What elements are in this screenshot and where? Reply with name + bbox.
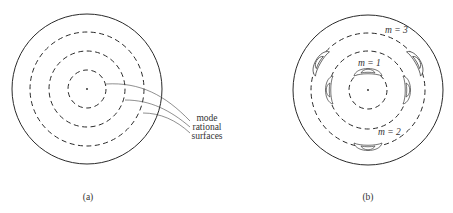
panel-b: m = 1 m = 2 m = 3 (b) [293,15,443,203]
magnetic-axis-dot [86,88,88,90]
label-m3: m = 3 [385,25,408,35]
label-m1: m = 1 [358,58,381,68]
caption-a: (a) [83,192,94,203]
caption-b: (b) [362,192,373,203]
island-m2-left [326,76,334,104]
island-m3-upper-right [407,48,427,76]
label-surfaces: surfaces [191,131,222,141]
panel-a: mode rational surfaces (a) [12,14,223,203]
island-m2-right [403,76,411,104]
island-m3-bottom [354,143,382,151]
leader-line-1 [106,84,190,121]
figure-canvas: mode rational surfaces (a) [0,0,453,213]
magnetic-axis-dot [367,89,369,91]
island-m1 [354,69,382,77]
island-m3-upper-left [309,48,329,76]
label-m2: m = 2 [378,127,401,137]
